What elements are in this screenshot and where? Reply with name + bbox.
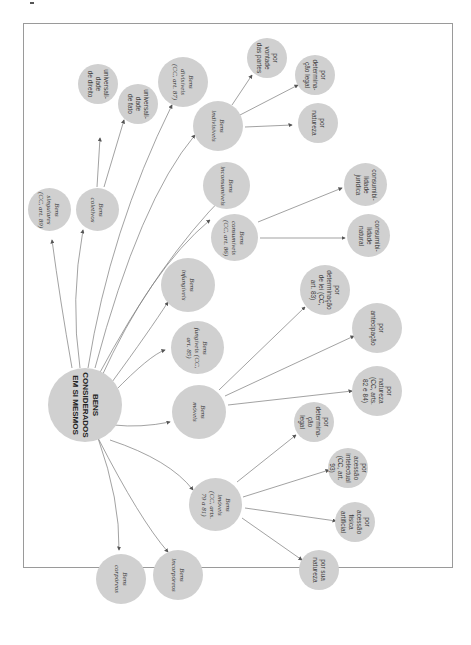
node-label: por determina- ção legal bbox=[298, 406, 330, 437]
node-consumibilidade-juridica: consumibi- lidade jurídica bbox=[344, 163, 387, 206]
node-infungiveis: Bens infungíveis bbox=[161, 258, 215, 312]
node-label: por vontade das partes bbox=[255, 43, 279, 73]
node-label: consumibi- lidade jurídica bbox=[354, 169, 378, 200]
node-moveis-antecipacao: por antecipação bbox=[352, 303, 402, 353]
node-corporeos: Bens corpóreos bbox=[96, 554, 146, 604]
node-consumibilidade-natural: consumibi- lidade natural bbox=[347, 214, 390, 257]
node-label: por sua natureza bbox=[311, 557, 327, 582]
node-coletivos: Bens coletivos bbox=[76, 188, 119, 231]
node-label: Bens fungíveis (CC, art. 85) bbox=[185, 327, 209, 367]
node-indivisiveis: Bens indivisíveis bbox=[193, 101, 243, 151]
node-label: Bens corpóreos bbox=[113, 565, 129, 593]
node-label: Bens inconsumíveis bbox=[218, 166, 234, 206]
node-label: universali- dade de direito bbox=[86, 69, 110, 99]
node-indiv-vontade: por vontade das partes bbox=[247, 38, 287, 78]
node-label: Bens indivisíveis bbox=[210, 110, 226, 142]
node-label: por acessão intelectual (CC, art. 93) bbox=[328, 453, 368, 482]
node-label: Bens infungíveis bbox=[180, 270, 196, 301]
node-label: por antecipação bbox=[369, 310, 385, 345]
node-label: universali- dade de fato bbox=[126, 89, 150, 119]
node-moveis-natureza: por natureza (CC, arts. 82 e 84) bbox=[352, 366, 402, 416]
node-label: Bens singulares (CC, art. 89) bbox=[37, 191, 61, 227]
node-universalidade-fato: universali- dade de fato bbox=[118, 84, 158, 124]
node-label: por determinação de lei (CC, art. 83) bbox=[309, 270, 341, 309]
node-imoveis-intelectual: por acessão intelectual (CC, art. 93) bbox=[328, 448, 368, 488]
node-incorporeos: Bens incorpóreos bbox=[153, 550, 203, 600]
node-label: Bens consumíveis (CC, art. 86) bbox=[222, 219, 246, 255]
node-label: por determina- ção legal bbox=[303, 59, 327, 90]
node-divisiveis: Bens divisíveis (CC, art. 87) bbox=[158, 57, 208, 107]
node-label: consumibi- lidade natural bbox=[357, 220, 381, 251]
node-label: Bens móveis bbox=[191, 402, 207, 421]
node-label: por natureza bbox=[310, 110, 326, 135]
node-label: por natureza (CC, arts. 82 e 84) bbox=[361, 377, 393, 405]
node-moveis: Bens móveis bbox=[172, 385, 226, 439]
root-node: BENS CONSIDERADOS EM SI MESMOS bbox=[48, 368, 122, 442]
node-moveis-lei: por determinação de lei (CC, art. 83) bbox=[300, 265, 350, 315]
node-label: por acessão física artificial bbox=[339, 510, 371, 534]
node-imoveis: Bens imóveis (CC, arts. 79 a 81) bbox=[189, 478, 242, 531]
root-label: BENS CONSIDERADOS EM SI MESMOS bbox=[70, 372, 100, 437]
node-label: Bens coletivos bbox=[89, 197, 105, 222]
node-imoveis-natureza: por sua natureza bbox=[299, 550, 339, 590]
node-fungiveis: Bens fungíveis (CC, art. 85) bbox=[171, 321, 224, 374]
node-imoveis-fisica: por acessão física artificial bbox=[335, 502, 375, 542]
node-indiv-legal: por determina- ção legal bbox=[295, 55, 335, 95]
node-consumiveis: Bens consumíveis (CC, art. 86) bbox=[211, 214, 258, 261]
node-label: Bens imóveis (CC, arts. 79 a 81) bbox=[200, 491, 232, 519]
node-label: Bens divisíveis (CC, art. 87) bbox=[171, 64, 195, 100]
node-indiv-natureza: por natureza bbox=[298, 103, 338, 143]
node-universalidade-direito: universali- dade de direito bbox=[78, 64, 118, 104]
node-singulares: Bens singulares (CC, art. 89) bbox=[28, 188, 71, 231]
node-imoveis-legal: por determina- ção legal bbox=[294, 402, 334, 442]
node-inconsumiveis: Bens inconsumíveis bbox=[203, 162, 250, 209]
node-label: Bens incorpóreos bbox=[170, 558, 186, 592]
